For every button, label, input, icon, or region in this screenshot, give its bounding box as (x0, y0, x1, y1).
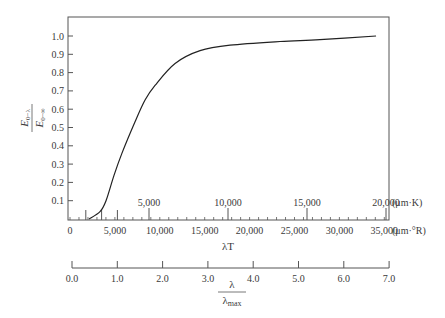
y-tick-label: 0.7 (52, 85, 65, 96)
rankine-tick-label: 15,000 (191, 225, 219, 236)
rankine-tick-label: 30,000 (326, 225, 354, 236)
y-axis-label: E0−λ E0−∞ (18, 104, 47, 132)
lambda-ratio-tick-label: 0.0 (66, 273, 79, 284)
y-tick-label: 0.8 (52, 67, 65, 78)
x-axis-kelvin: 5,00010,00015,00020,000(μm·K) (86, 197, 423, 220)
y-tick-label: 1.0 (52, 31, 65, 42)
data-curve (89, 36, 376, 219)
kelvin-unit-label: (μm·K) (392, 197, 422, 209)
y-tick-label: 0.4 (52, 140, 65, 151)
svg-text:E0−∞: E0−∞ (33, 108, 47, 128)
plot-frame (68, 17, 389, 220)
y-axis: 0.10.20.30.40.50.60.70.80.91.0 (52, 31, 74, 207)
svg-text:E0−λ: E0−λ (18, 109, 32, 128)
lambda-ratio-tick-label: 6.0 (338, 273, 351, 284)
rankine-tick-label: 0 (68, 225, 73, 236)
rankine-tick-label: 5,000 (104, 225, 127, 236)
kelvin-tick-label: 10,000 (214, 197, 242, 208)
kelvin-tick-label: 15,000 (293, 197, 321, 208)
y-tick-label: 0.1 (52, 195, 65, 206)
x-axis-label: λT (222, 240, 234, 252)
rankine-tick-label: 25,000 (281, 225, 309, 236)
blackbody-fraction-chart: 0.10.20.30.40.50.60.70.80.91.0 E0−λ E0−∞… (0, 0, 445, 318)
y-tick-label: 0.5 (52, 122, 65, 133)
rankine-tick-label: 10,000 (146, 225, 174, 236)
x-axis-lambda-ratio-label: λ λmax (218, 278, 246, 308)
lambda-ratio-tick-label: 2.0 (156, 273, 169, 284)
y-tick-label: 0.2 (52, 177, 65, 188)
lambda-ratio-tick-label: 3.0 (202, 273, 215, 284)
lambda-ratio-tick-label: 4.0 (247, 273, 260, 284)
lambda-ratio-tick-label: 1.0 (111, 273, 124, 284)
svg-text:λ: λ (229, 278, 235, 290)
y-tick-label: 0.6 (52, 104, 65, 115)
lambda-ratio-tick-label: 5.0 (292, 273, 305, 284)
y-tick-label: 0.9 (52, 49, 65, 60)
y-tick-label: 0.3 (52, 159, 65, 170)
rankine-tick-label: 20,000 (236, 225, 264, 236)
rankine-unit-label: (μm·°R) (392, 225, 426, 237)
svg-text:λmax: λmax (222, 294, 241, 308)
lambda-ratio-tick-label: 7.0 (383, 273, 396, 284)
kelvin-tick-label: 5,000 (138, 197, 161, 208)
